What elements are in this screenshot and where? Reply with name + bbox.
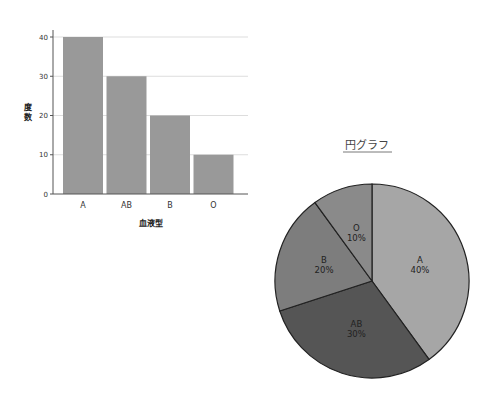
pie-label-percent: 10% <box>347 233 366 243</box>
pie-chart: 円グラフ A40%AB30%B20%O10% <box>0 0 496 393</box>
pie-label-category: AB <box>351 319 363 329</box>
pie-label-category: A <box>417 255 423 265</box>
pie-label-percent: 20% <box>315 265 334 275</box>
pie-label-percent: 30% <box>347 329 366 339</box>
pie-chart-title: 円グラフ <box>345 138 389 152</box>
pie-label-category: O <box>353 223 360 233</box>
pie-label-percent: 40% <box>411 265 430 275</box>
pie-slices <box>275 184 469 378</box>
pie-label-category: B <box>321 255 327 265</box>
